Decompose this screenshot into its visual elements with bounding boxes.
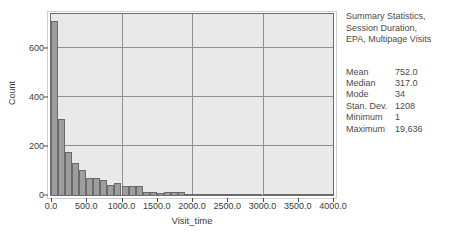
summary-statistics-title: Summary Statistics,Session Duration,EPA,… [346,11,451,46]
histogram-bars [51,14,333,195]
histogram-bar [312,194,319,195]
histogram-bar [255,194,262,195]
histogram-bar [185,194,192,195]
histogram-bar [227,194,234,195]
stat-row: Minimum1 [346,112,451,123]
histogram-bar [58,119,65,195]
stat-row: Mean752.0 [346,67,451,78]
histogram-bar [51,21,58,195]
histogram-bar [79,170,86,195]
y-tick-mark [44,48,48,49]
summary-title-line: Session Duration, [346,23,451,35]
histogram-bar [150,192,157,195]
histogram-bar [136,186,143,195]
x-tick-label: 0.0 [45,201,58,211]
histogram-bar [284,194,291,195]
stat-value: 19,636 [395,124,423,135]
histogram-bar [326,194,333,195]
x-axis-label: Visit_time [50,215,334,226]
stat-label: Minimum [346,112,395,123]
stat-row: Mode34 [346,89,451,100]
x-axis-tick-labels: 0.0500.01000.01500.02000.02500.03000.035… [50,198,334,214]
histogram-bar [305,194,312,195]
y-tick-label: 200 [29,141,44,151]
histogram-bar [157,193,164,195]
histogram-bar [248,194,255,195]
histogram-bar [291,194,298,195]
histogram-bar [72,163,79,195]
stat-row: Median317.0 [346,78,451,89]
stat-value: 317.0 [395,78,418,89]
histogram-bar [122,186,129,195]
histogram-bar [199,194,206,195]
histogram-bar [263,194,270,195]
summary-title-line: Summary Statistics, [346,11,451,23]
x-tick-label: 1500.0 [143,201,171,211]
x-tick-label: 500.0 [75,201,98,211]
y-tick-mark [44,146,48,147]
histogram-bar [234,194,241,195]
stat-label: Maximum [346,124,395,135]
histogram-bar [171,192,178,195]
histogram-bar [143,192,150,195]
histogram-bar [107,185,114,195]
histogram-bar [178,192,185,195]
stat-row: Maximum19,636 [346,124,451,135]
stat-row: Stan. Dev.1208 [346,101,451,112]
histogram-figure: 0200400600 0.0500.01000.01500.02000.0250… [0,0,451,242]
histogram-bar [114,183,121,195]
x-tick-label: 2000.0 [178,201,206,211]
stat-label: Mean [346,67,395,78]
y-tick-mark [44,97,48,98]
histogram-bar [319,194,326,195]
summary-title-line: EPA, Multipage Visits [346,34,451,46]
x-tick-label: 3500.0 [284,201,312,211]
stat-label: Median [346,78,395,89]
x-tick-label: 3000.0 [249,201,277,211]
stat-label: Mode [346,89,395,100]
histogram-bar [65,152,72,195]
y-tick-mark [44,195,48,196]
histogram-bar [213,194,220,195]
histogram-bar [86,178,93,195]
x-tick-label: 4000.0 [319,201,347,211]
summary-statistics-panel: Summary Statistics,Session Duration,EPA,… [346,11,451,135]
plot-area [50,13,334,196]
stat-value: 1208 [395,101,415,112]
stat-value: 34 [395,89,405,100]
histogram-bar [100,180,107,195]
y-tick-label: 600 [29,43,44,53]
stat-label: Stan. Dev. [346,101,395,112]
y-tick-label: 0 [39,190,44,200]
summary-statistics-table: Mean752.0Median317.0Mode34Stan. Dev.1208… [346,67,451,135]
y-tick-label: 400 [29,92,44,102]
histogram-bar [241,194,248,195]
histogram-bar [129,186,136,195]
stat-value: 1 [395,112,400,123]
histogram-bar [164,192,171,195]
histogram-bar [298,194,305,195]
histogram-bar [93,178,100,195]
x-tick-label: 1000.0 [108,201,136,211]
y-axis-label: Count [7,63,17,123]
x-tick-label: 2500.0 [213,201,241,211]
histogram-bar [270,194,277,195]
histogram-bar [192,194,199,195]
histogram-bar [220,194,227,195]
cropped-caption [66,236,396,242]
histogram-bar [277,194,284,195]
histogram-bar [206,194,213,195]
stat-value: 752.0 [395,67,418,78]
